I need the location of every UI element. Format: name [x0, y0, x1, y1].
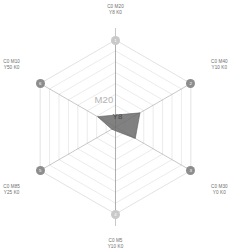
axis-label-4-line2: Y10 K0: [86, 244, 146, 250]
axis-label-5: C0 M85 Y25 K0: [0, 184, 42, 196]
axis-label-3-line2: Y0 K0: [189, 190, 231, 196]
axis-label-1-line2: Y8 K0: [86, 10, 146, 16]
axis-label-2: C0 M40 Y10 K0: [189, 59, 231, 71]
axis-label-4: C0 M5 Y10 K0: [86, 238, 146, 250]
axis-label-6-line2: Y50 K0: [0, 65, 42, 71]
axis-label-1: C0 M20 Y8 K0: [86, 4, 146, 16]
axis-label-3: C0 M30 Y0 K0: [189, 184, 231, 196]
axis-label-6: C0 M10 Y50 K0: [0, 59, 42, 71]
radar-chart-container: C0 M20 Y8 K0 C0 M40 Y10 K0 C0 M30 Y0 K0 …: [0, 0, 231, 251]
axis-badge-5[interactable]: 5: [36, 166, 45, 175]
center-annotation-y8: Y8: [113, 112, 123, 121]
axis-badge-6[interactable]: 6: [36, 79, 45, 88]
axis-badge-4[interactable]: 4: [111, 210, 120, 219]
axis-label-5-line2: Y25 K0: [0, 190, 42, 196]
axis-badge-1[interactable]: 1: [111, 36, 120, 45]
axis-label-2-line2: Y10 K0: [189, 65, 231, 71]
center-annotation-m20: M20: [95, 94, 114, 105]
